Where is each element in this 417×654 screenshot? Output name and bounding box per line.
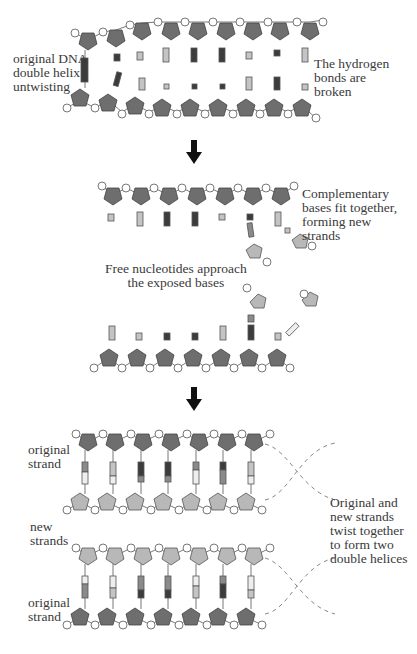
label-complementary: Complementary bases fit together, formin… [302,187,397,243]
arrow-down-icon [186,387,202,411]
label-untwisting: original DNA double helix untwisting [13,52,88,94]
label-free-nucleotides: Free nucleotides approach the exposed ba… [105,262,247,290]
label-original-strand-top: original strand [28,443,70,471]
stage-separated-top [98,182,316,266]
double-helix-2 [63,544,274,629]
label-original-strand-bottom: original strand [28,596,70,624]
arrow-down-icon [186,140,202,164]
twist-dashed-lines [265,443,335,614]
stage-untwisting [63,18,327,122]
double-helix-1 [63,430,274,514]
label-hydrogen-bonds: The hydrogen bonds are broken [314,57,389,99]
label-twist-together: Original and new strands twist together … [330,496,408,566]
label-new-strands: new strands [30,520,68,548]
stage-separated-bottom [90,284,318,372]
